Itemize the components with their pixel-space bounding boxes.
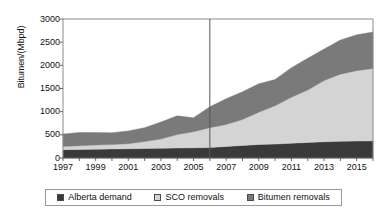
legend-swatch-icon — [154, 194, 161, 201]
legend-entry[interactable]: Alberta demand — [57, 193, 132, 202]
plot-area — [0, 0, 387, 216]
x-tick-label: 2015 — [337, 162, 377, 173]
legend-swatch-icon — [57, 194, 64, 201]
legend-entry[interactable]: SCO removals — [154, 193, 224, 202]
x-axis-tick-labels: 1997199920012003200520072009201120132015 — [63, 162, 373, 178]
legend-label: Alberta demand — [68, 193, 132, 202]
legend-label: SCO removals — [165, 193, 224, 202]
legend-swatch-icon — [247, 194, 254, 201]
bitumen-supply-chart: Bitumen/(Mbpd) 300025002000150010005000 … — [0, 0, 387, 216]
legend-label: Bitumen removals — [258, 193, 330, 202]
chart-legend: Alberta demandSCO removalsBitumen remova… — [45, 189, 342, 206]
legend-entry[interactable]: Bitumen removals — [247, 193, 330, 202]
